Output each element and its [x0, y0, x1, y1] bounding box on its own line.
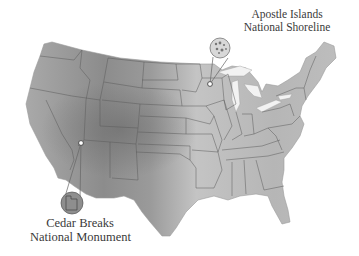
apostle-islands-marker[interactable] [208, 82, 213, 87]
cedar-breaks-label: Cedar Breaks National Monument [30, 216, 130, 244]
cedar-breaks-label-line1: Cedar Breaks [30, 216, 130, 230]
apostle-islands-inset [210, 38, 230, 58]
apostle-islands-label: Apostle Islands National Shoreline [232, 8, 342, 34]
cedar-breaks-marker[interactable] [79, 141, 84, 146]
apostle-islands-label-line2: National Shoreline [232, 21, 342, 34]
cedar-breaks-inset [61, 192, 83, 214]
cedar-breaks-label-line2: National Monument [30, 230, 130, 244]
apostle-islands-label-line1: Apostle Islands [232, 8, 342, 21]
